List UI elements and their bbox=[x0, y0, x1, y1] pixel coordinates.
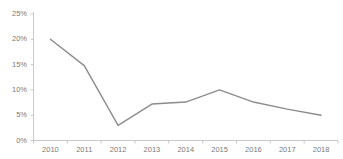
x-axis-tick-label: 2011 bbox=[67, 145, 101, 154]
x-axis-tick-label: 2014 bbox=[169, 145, 203, 154]
series-line bbox=[50, 39, 321, 125]
y-axis-tick-label: 20% bbox=[3, 34, 27, 43]
chart-axes bbox=[31, 12, 339, 144]
x-axis-tick-label: 2016 bbox=[236, 145, 270, 154]
plot-area bbox=[0, 0, 343, 159]
x-axis-tick-label: 2012 bbox=[101, 145, 135, 154]
x-axis-tick-label: 2015 bbox=[203, 145, 237, 154]
y-axis-tick-label: 5% bbox=[3, 110, 27, 119]
line-chart: 0%5%10%15%20%25% 20102011201220132014201… bbox=[0, 0, 343, 159]
x-axis-tick-label: 2013 bbox=[135, 145, 169, 154]
y-axis-tick-label: 0% bbox=[3, 136, 27, 145]
y-axis-tick-label: 25% bbox=[3, 9, 27, 18]
x-axis-tick-label: 2017 bbox=[270, 145, 304, 154]
x-axis-tick-label: 2018 bbox=[304, 145, 338, 154]
x-axis-tick-label: 2010 bbox=[33, 145, 67, 154]
y-axis-tick-label: 10% bbox=[3, 85, 27, 94]
y-axis-tick-label: 15% bbox=[3, 60, 27, 69]
